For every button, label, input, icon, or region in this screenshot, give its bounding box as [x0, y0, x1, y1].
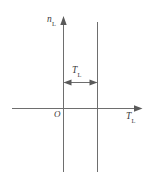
y-axis-label-subscript: L — [52, 20, 56, 27]
figure-canvas — [0, 0, 154, 184]
x-axis-arrowhead-icon — [134, 105, 143, 111]
dimension-arrowhead-left-icon — [64, 79, 72, 85]
origin-label: O — [54, 110, 61, 119]
x-axis-label-subscript: L — [131, 117, 135, 124]
figure-diagram: nL TL O TL — [0, 0, 154, 184]
y-axis-arrowhead-icon — [60, 16, 66, 25]
dimension-arrowhead-right-icon — [90, 79, 98, 85]
dimension-label: TL — [72, 66, 81, 77]
x-axis-label: TL — [126, 112, 135, 123]
dimension-label-subscript: L — [77, 71, 81, 78]
y-axis-label: nL — [47, 15, 56, 26]
